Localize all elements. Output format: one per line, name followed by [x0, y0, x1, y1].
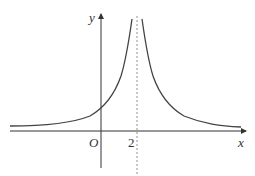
curve-left-branch	[10, 19, 132, 126]
y-axis-label: y	[87, 10, 95, 25]
curve-right-branch	[142, 19, 241, 127]
origin-label: O	[89, 135, 99, 150]
function-graph: y x O 2	[0, 0, 255, 176]
x-axis-label: x	[237, 135, 244, 150]
tick-label-2: 2	[128, 135, 135, 150]
